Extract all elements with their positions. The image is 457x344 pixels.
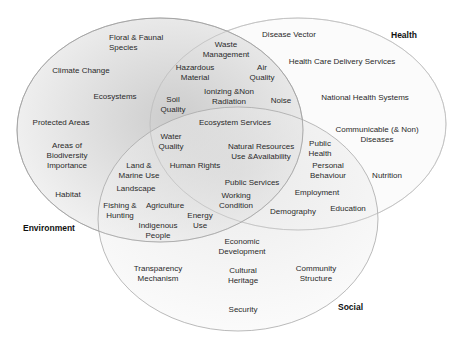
label-nutrition: Nutrition — [372, 171, 402, 181]
label-noise: Noise — [271, 96, 291, 106]
label-working-condition: WorkingCondition — [219, 191, 253, 211]
set-label-social: Social — [338, 302, 363, 312]
label-community-structure: CommunityStructure — [296, 264, 336, 284]
label-public-health: PublicHealth — [308, 139, 331, 159]
label-health-care-delivery: Health Care Delivery Services — [289, 57, 396, 67]
label-landscape: Landscape — [116, 184, 155, 194]
label-soil-quality: SoilQuality — [161, 95, 186, 115]
label-protected-areas: Protected Areas — [33, 118, 90, 128]
label-demography: Demography — [270, 207, 316, 217]
label-energy-use: EnergyUse — [187, 211, 212, 231]
label-air-quality: AirQuality — [250, 63, 275, 83]
label-habitat: Habitat — [55, 190, 80, 200]
label-waste-management: WasteManagement — [203, 40, 250, 60]
label-public-services: Public Services — [225, 178, 280, 188]
label-employment: Employment — [295, 188, 339, 198]
label-ecosystem-services: Ecosystem Services — [199, 118, 271, 128]
label-education: Education — [330, 204, 366, 214]
label-natural-resources: Natural ResourcesUse &Availability — [228, 142, 294, 162]
label-economic-development: EconomicDevelopment — [218, 237, 265, 257]
label-communicable-diseases: Communicable (& Non)Diseases — [335, 125, 418, 145]
label-water-quality: WaterQuality — [159, 132, 184, 152]
label-agriculture: Agriculture — [146, 201, 184, 211]
label-fishing-hunting: Fishing &Hunting — [103, 201, 136, 221]
label-floral-faunal-species: Floral & FaunalSpecies — [109, 33, 163, 53]
label-climate-change: Climate Change — [52, 66, 109, 76]
label-cultural-heritage: CulturalHeritage — [228, 266, 258, 286]
label-indigenous-people: IndigenousPeople — [138, 221, 177, 241]
label-human-rights: Human Rights — [170, 161, 221, 171]
label-land-marine-use: Land &Marine Use — [119, 161, 160, 181]
label-ecosystems: Ecosystems — [93, 92, 136, 102]
label-national-health-systems: National Health Systems — [321, 93, 409, 103]
label-personal-behaviour: PersonalBehaviour — [310, 161, 346, 181]
set-label-health: Health — [391, 30, 417, 40]
label-disease-vector: Disease Vector — [262, 30, 316, 40]
label-ionizing-radiation: Ionizing &NonRadiation — [204, 87, 254, 107]
label-security: Security — [229, 305, 258, 315]
label-transparency-mechanism: TransparencyMechanism — [134, 264, 183, 284]
label-biodiversity-importance: Areas ofBiodiversityImportance — [47, 141, 88, 171]
label-hazardous-material: HazardousMaterial — [176, 63, 215, 83]
venn-diagram: Floral & FaunalSpecies Climate Change Ec… — [0, 0, 457, 344]
set-label-environment: Environment — [23, 223, 75, 233]
